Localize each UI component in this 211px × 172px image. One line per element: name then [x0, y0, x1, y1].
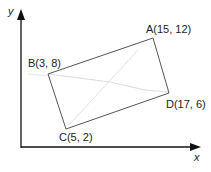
x-axis-label: x	[193, 151, 200, 163]
y-axis-label: y	[7, 5, 15, 17]
point-a-label: A(15, 12)	[146, 23, 191, 35]
diagram-canvas: y x A(15, 12) B(3, 8) C(5, 2) D(17, 6)	[0, 0, 211, 172]
rectangle-abcd	[48, 38, 169, 129]
point-c-label: C(5, 2)	[59, 131, 93, 143]
point-b-label: B(3, 8)	[28, 57, 61, 69]
y-axis-arrow-icon	[17, 9, 25, 20]
x-axis-arrow-icon	[190, 143, 201, 151]
y-axis	[17, 9, 25, 148]
x-axis	[21, 143, 201, 151]
point-d-label: D(17, 6)	[166, 98, 206, 110]
